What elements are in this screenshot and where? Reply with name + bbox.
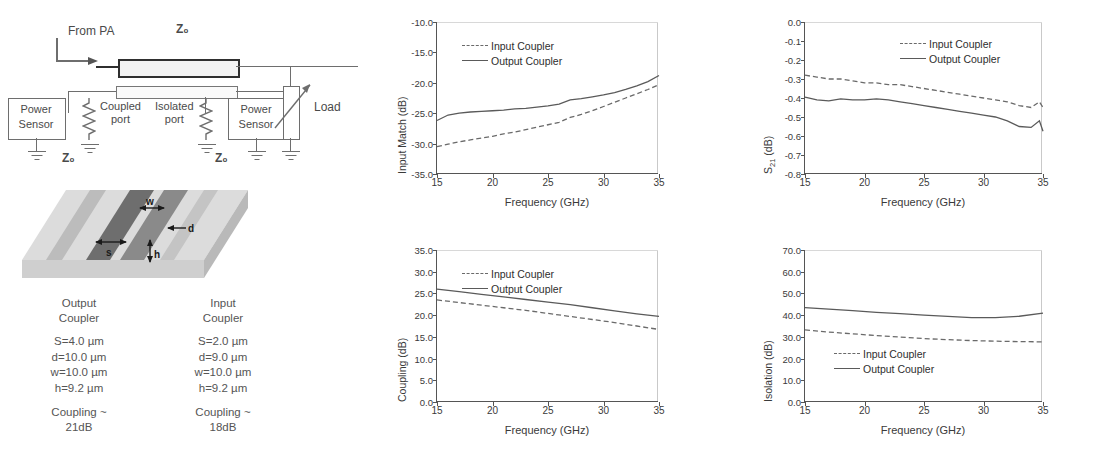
x-axis-tick-label: 25 [918, 405, 929, 416]
plot-area: 0.010.020.030.040.050.060.070.0152025303… [804, 250, 1042, 402]
input-param-h: h=9.2 µm [164, 381, 282, 397]
input-coupler-title-2: Coupler [164, 311, 282, 326]
series-line [805, 330, 1043, 342]
dashed-line-icon [834, 353, 860, 354]
x-axis-tick-label: 30 [598, 405, 609, 416]
svg-text:w: w [145, 196, 154, 207]
from-pa-arrow-vertical [56, 38, 58, 62]
x-axis-tick-mark [493, 174, 494, 178]
isolated-port-label: Isolated port [155, 100, 194, 126]
x-axis-tick-label: 25 [542, 405, 553, 416]
y-axis-tick-label: 25.0 [415, 288, 434, 299]
x-axis-tick-label: 20 [859, 177, 870, 188]
input-coupler-title-1: Input [164, 296, 282, 311]
x-axis-tick-label: 20 [487, 177, 498, 188]
series-line [805, 308, 1043, 318]
y-axis-tick-label: 10.0 [783, 375, 802, 386]
load-label: Load [314, 100, 341, 114]
ground-symbol-sensor-left [27, 151, 47, 163]
y-axis-label: Isolation (dB) [762, 340, 774, 402]
x-axis-tick-mark [659, 174, 660, 178]
x-axis-tick-mark [984, 402, 985, 406]
input-coupler-params: Input Coupler S=2.0 µm d=9.0 µm w=10.0 µ… [164, 296, 282, 434]
y-axis-tick-label: 40.0 [783, 310, 802, 321]
x-axis-label: Frequency (GHz) [804, 424, 1042, 436]
ground-symbol-sensor-right [247, 151, 267, 163]
solid-line-icon [834, 368, 860, 369]
y-axis-tick-label: -0.2 [785, 55, 801, 66]
legend: Input CouplerOutput Coupler [462, 266, 562, 296]
y-axis-tick-label: 35.0 [415, 245, 434, 256]
x-axis-tick-label: 30 [978, 177, 989, 188]
y-axis-tick-label: 0.0 [788, 17, 801, 28]
svg-text:s: s [106, 247, 112, 258]
y-axis-tick-label: 20.0 [415, 310, 434, 321]
x-axis-tick-label: 20 [859, 405, 870, 416]
y-axis-tick-label: 60.0 [783, 266, 802, 277]
ground-symbol-z0-left [80, 144, 100, 156]
coupler-parameters: Output Coupler S=4.0 µm d=10.0 µm w=10.0… [6, 296, 296, 434]
y-axis-tick-label: 10.0 [415, 353, 434, 364]
y-axis-tick-label: 30.0 [415, 266, 434, 277]
solid-line-icon [462, 288, 488, 289]
x-axis-tick-mark [1043, 174, 1044, 178]
circuit-schematic: From PA Z₀ Coupled port Isolated port Po… [0, 8, 372, 188]
y-axis-label: Coupling (dB) [396, 338, 408, 402]
y-axis-label: Input Match (dB) [396, 96, 408, 174]
output-coupler-title-1: Output [20, 296, 138, 311]
input-coupling-value: 18dB [164, 420, 282, 435]
load-variable-arrow [272, 80, 316, 132]
x-axis-tick-mark [865, 174, 866, 178]
chart-isolation: 0.010.020.030.040.050.060.070.0152025303… [752, 234, 1102, 460]
x-axis-tick-mark [1043, 402, 1044, 406]
legend: Input CouplerOutput Coupler [462, 38, 562, 68]
series-line [805, 75, 1043, 107]
x-axis-tick-label: 35 [653, 405, 664, 416]
power-sensor-left-gnd-lead [36, 138, 37, 151]
x-axis-tick-mark [604, 402, 605, 406]
legend-label-input: Input Coupler [929, 38, 992, 50]
chart-input-match: -35.0-30.0-25.0-20.0-15.0-10.01520253035… [388, 4, 708, 232]
z0-right-label: Z₀ [215, 151, 228, 165]
x-axis-label: Frequency (GHz) [436, 424, 658, 436]
dashed-line-icon [462, 273, 488, 274]
x-axis-tick-mark [548, 174, 549, 178]
legend-item-output: Output Coupler [462, 53, 562, 68]
x-axis-tick-label: 15 [431, 405, 442, 416]
x-axis-tick-label: 35 [1037, 405, 1048, 416]
y-axis-tick-label: -25.0 [411, 108, 433, 119]
y-axis-tick-label: 30.0 [783, 331, 802, 342]
chart-s21: -0.8-0.7-0.6-0.5-0.4-0.3-0.2-0.10.015202… [752, 4, 1102, 232]
x-axis-tick-mark [604, 174, 605, 178]
legend-label-input: Input Coupler [863, 348, 926, 360]
x-axis-tick-label: 20 [487, 405, 498, 416]
y-axis-tick-label: -35.0 [411, 169, 433, 180]
x-axis-tick-label: 25 [918, 177, 929, 188]
y-axis-tick-label: 5.0 [420, 375, 433, 386]
input-param-s: S=2.0 µm [164, 334, 282, 350]
x-axis-tick-mark [924, 174, 925, 178]
y-axis-label: S21 (dB) [762, 136, 777, 174]
y-axis-tick-label: -20.0 [411, 77, 433, 88]
coupled-line-3d-illustration: w d s h [18, 186, 268, 296]
y-axis-tick-label: -0.1 [785, 36, 801, 47]
x-axis-tick-mark [805, 402, 806, 406]
coupled-port-label: Coupled port [100, 100, 141, 126]
x-axis-tick-label: 25 [542, 177, 553, 188]
solid-line-icon [900, 58, 926, 59]
series-line [437, 85, 659, 147]
ground-symbol-z0-right [197, 144, 217, 156]
x-axis-tick-mark [865, 402, 866, 406]
x-axis-tick-mark [984, 174, 985, 178]
output-param-d: d=10.0 µm [20, 350, 138, 366]
output-param-h: h=9.2 µm [20, 381, 138, 397]
y-axis-tick-label: -0.6 [785, 131, 801, 142]
main-transmission-line [118, 59, 240, 78]
ground-symbol-load [281, 151, 301, 163]
load-gnd-lead [290, 138, 291, 151]
legend-item-input: Input Coupler [462, 266, 562, 281]
output-coupler-title-2: Coupler [20, 311, 138, 326]
x-axis-tick-mark [437, 402, 438, 406]
power-sensor-left-label: Power Sensor [12, 102, 60, 132]
legend-item-output: Output Coupler [462, 281, 562, 296]
